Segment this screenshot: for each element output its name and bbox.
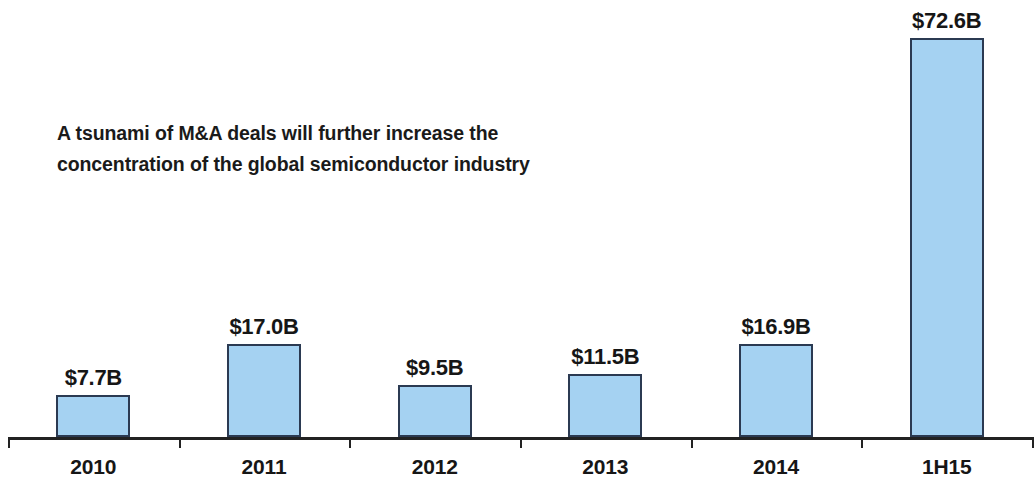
plot-area: $7.7B2010$17.0B2011$9.5B2012$11.5B2013$1… <box>0 0 1035 483</box>
x-axis-label-2012: 2012 <box>355 455 515 479</box>
x-axis-label-2014: 2014 <box>696 455 856 479</box>
x-axis-tick <box>349 437 351 448</box>
x-axis-tick <box>179 437 181 448</box>
bar-value-label-2010: $7.7B <box>13 365 173 391</box>
x-axis-tick <box>1032 437 1034 448</box>
bar-value-label-2013: $11.5B <box>525 344 685 370</box>
bar-2010 <box>56 395 130 437</box>
x-axis-label-2011: 2011 <box>184 455 344 479</box>
x-axis-label-2010: 2010 <box>13 455 173 479</box>
x-axis-label-2013: 2013 <box>525 455 685 479</box>
bar-2012 <box>398 385 472 437</box>
x-axis-tick <box>691 437 693 448</box>
bar-value-label-2012: $9.5B <box>355 355 515 381</box>
bar-2013 <box>568 374 642 437</box>
bar-2014 <box>739 344 813 437</box>
x-axis-tick <box>8 437 10 448</box>
bar-value-label-2014: $16.9B <box>696 314 856 340</box>
x-axis-tick <box>861 437 863 448</box>
chart-container: A tsunami of M&A deals will further incr… <box>0 0 1035 483</box>
bar-1H15 <box>910 38 984 437</box>
bar-value-label-2011: $17.0B <box>184 314 344 340</box>
bar-value-label-1H15: $72.6B <box>867 8 1027 34</box>
x-axis-label-1H15: 1H15 <box>867 455 1027 479</box>
x-axis-tick <box>520 437 522 448</box>
bar-2011 <box>227 344 301 437</box>
